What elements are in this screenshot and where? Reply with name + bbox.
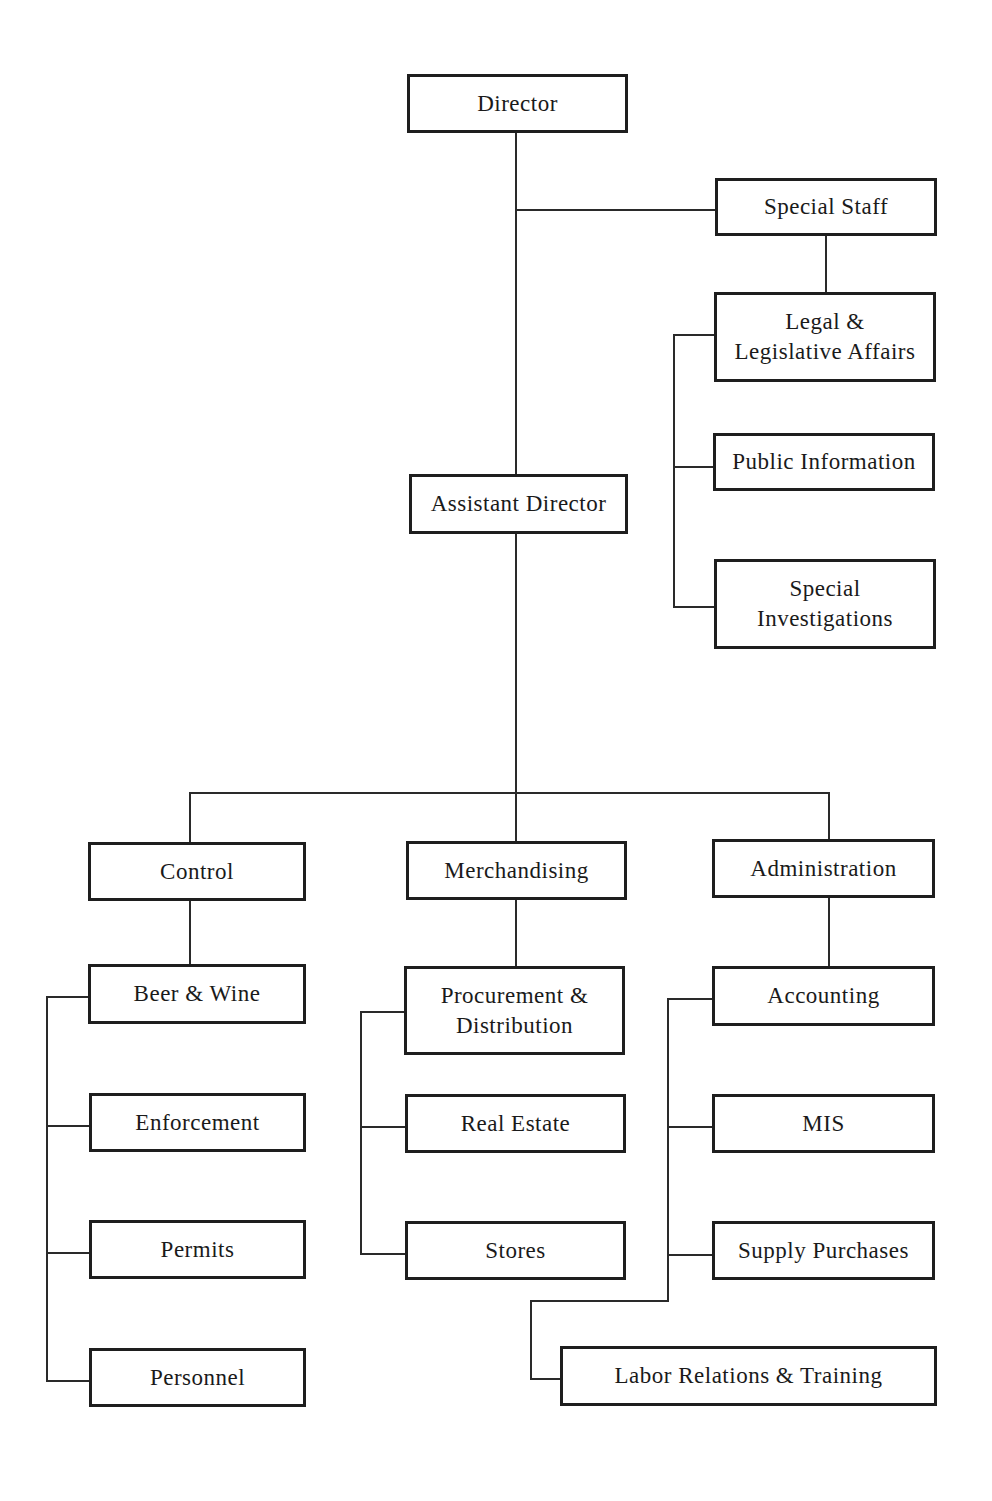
connector-control-branch bbox=[46, 996, 48, 1382]
connector-special-staff-branch bbox=[673, 334, 675, 608]
node-label: Beer & Wine bbox=[134, 979, 261, 1009]
connector-control-to-beer bbox=[189, 900, 191, 966]
node-label: Permits bbox=[161, 1235, 235, 1265]
node-assistant-director: Assistant Director bbox=[409, 474, 628, 534]
node-label: Accounting bbox=[767, 981, 879, 1011]
connector-to-supply bbox=[667, 1254, 713, 1256]
node-label: Real Estate bbox=[461, 1109, 571, 1139]
connector-assistant-to-divisions bbox=[515, 533, 517, 843]
node-label: Personnel bbox=[150, 1363, 245, 1393]
node-label: Special Investigations bbox=[757, 574, 893, 634]
connector-to-legal bbox=[673, 334, 716, 336]
node-labor-relations-training: Labor Relations & Training bbox=[560, 1346, 937, 1406]
node-label: Merchandising bbox=[444, 856, 588, 886]
node-label: Supply Purchases bbox=[738, 1236, 909, 1266]
connector-merch-to-procurement bbox=[515, 899, 517, 967]
node-label: Enforcement bbox=[135, 1108, 259, 1138]
connector-to-labor bbox=[530, 1378, 562, 1380]
connector-to-permits bbox=[46, 1252, 90, 1254]
connector-to-administration bbox=[828, 792, 830, 841]
connector-to-enforcement bbox=[46, 1125, 90, 1127]
connector-to-real-estate bbox=[360, 1126, 406, 1128]
connector-admin-to-accounting bbox=[828, 897, 830, 967]
node-mis: MIS bbox=[712, 1094, 935, 1153]
node-legal-legislative: Legal & Legislative Affairs bbox=[714, 292, 936, 382]
node-administration: Administration bbox=[712, 839, 935, 898]
node-merchandising: Merchandising bbox=[406, 841, 627, 900]
connector-to-special-staff bbox=[515, 209, 716, 211]
connector-merch-branch bbox=[360, 1011, 362, 1254]
connector-to-beer-wine bbox=[46, 996, 90, 998]
node-label: Stores bbox=[485, 1236, 546, 1266]
node-permits: Permits bbox=[89, 1220, 306, 1279]
node-label: Labor Relations & Training bbox=[615, 1361, 883, 1391]
connector-admin-branch bbox=[667, 998, 669, 1302]
connector-to-mis bbox=[667, 1126, 713, 1128]
node-personnel: Personnel bbox=[89, 1348, 306, 1407]
node-beer-wine: Beer & Wine bbox=[88, 964, 306, 1024]
connector-to-stores bbox=[360, 1253, 406, 1255]
connector-divisions-bar bbox=[189, 792, 830, 794]
node-special-investigations: Special Investigations bbox=[714, 559, 936, 649]
node-label: Director bbox=[477, 89, 558, 119]
node-label: Special Staff bbox=[764, 192, 888, 222]
node-supply-purchases: Supply Purchases bbox=[712, 1221, 935, 1280]
node-label: Procurement & Distribution bbox=[441, 981, 589, 1041]
node-label: Administration bbox=[750, 854, 896, 884]
connector-to-personnel bbox=[46, 1380, 90, 1382]
connector-admin-to-labor-drop bbox=[530, 1300, 532, 1380]
node-label: Control bbox=[160, 857, 234, 887]
connector-to-accounting bbox=[667, 998, 713, 1000]
node-real-estate: Real Estate bbox=[405, 1094, 626, 1153]
node-label: Public Information bbox=[732, 447, 915, 477]
connector-admin-to-labor-bar bbox=[530, 1300, 669, 1302]
connector-director-to-assistant bbox=[515, 132, 517, 476]
connector-to-control bbox=[189, 792, 191, 843]
node-procurement-distribution: Procurement & Distribution bbox=[404, 966, 625, 1055]
node-control: Control bbox=[88, 842, 306, 901]
node-public-information: Public Information bbox=[713, 433, 935, 491]
node-accounting: Accounting bbox=[712, 966, 935, 1026]
node-enforcement: Enforcement bbox=[89, 1093, 306, 1152]
node-label: MIS bbox=[802, 1109, 844, 1139]
connector-special-staff-to-legal bbox=[825, 235, 827, 294]
node-stores: Stores bbox=[405, 1221, 626, 1280]
node-director: Director bbox=[407, 74, 628, 133]
node-label: Assistant Director bbox=[431, 489, 607, 519]
connector-to-public-info bbox=[673, 466, 715, 468]
connector-to-special-investigations bbox=[673, 606, 716, 608]
connector-to-procurement bbox=[360, 1011, 406, 1013]
node-special-staff: Special Staff bbox=[715, 178, 937, 236]
node-label: Legal & Legislative Affairs bbox=[735, 307, 916, 367]
